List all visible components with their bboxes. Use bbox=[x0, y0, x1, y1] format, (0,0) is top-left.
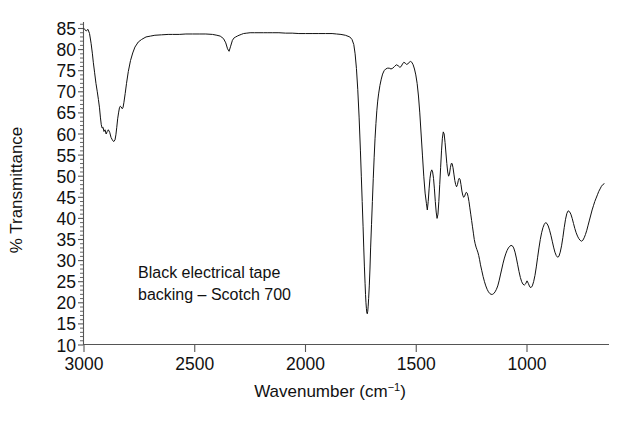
annotation-line-1: Black electrical tape bbox=[138, 264, 280, 281]
y-tick-label: 80 bbox=[57, 40, 77, 60]
y-tick-label: 35 bbox=[57, 230, 76, 250]
x-tick-label: 2500 bbox=[175, 354, 214, 374]
y-tick-label: 75 bbox=[57, 61, 76, 81]
y-axis-label: % Transmittance bbox=[7, 127, 26, 254]
y-tick-label: 70 bbox=[57, 82, 77, 102]
x-axis-label-base: Wavenumber (cm bbox=[254, 382, 388, 401]
x-axis-label-group: Wavenumber (cm−1) bbox=[254, 381, 406, 401]
x-tick-label: 3000 bbox=[65, 354, 104, 374]
x-axis-label: Wavenumber (cm−1) bbox=[254, 381, 406, 401]
y-tick-label: 20 bbox=[57, 293, 77, 313]
chart-canvas: % Transmittance 101520253035404550556065… bbox=[0, 0, 623, 432]
x-tick-mark-group bbox=[84, 345, 527, 353]
y-tick-label: 10 bbox=[57, 336, 77, 356]
y-tick-label: 40 bbox=[57, 209, 77, 229]
x-axis-label-superscript: −1 bbox=[388, 381, 401, 393]
ir-spectrum-chart: % Transmittance 101520253035404550556065… bbox=[0, 0, 623, 432]
y-tick-label: 50 bbox=[57, 167, 77, 187]
y-tick-mark-group bbox=[78, 24, 84, 345]
annotation-group: Black electrical tape backing – Scotch 7… bbox=[138, 264, 291, 303]
y-axis-label-group: % Transmittance bbox=[7, 127, 26, 254]
x-tick-label: 1000 bbox=[508, 354, 547, 374]
x-axis-label-close: ) bbox=[400, 382, 406, 401]
y-tick-label: 85 bbox=[57, 19, 76, 39]
y-tick-label: 60 bbox=[57, 125, 77, 145]
y-tick-label: 45 bbox=[57, 188, 76, 208]
y-tick-label-group: 10152025303540455055606570758085 bbox=[57, 19, 77, 356]
y-tick-label: 25 bbox=[57, 272, 76, 292]
x-tick-label-group: 30002500200015001000 bbox=[65, 354, 547, 374]
x-tick-label: 2000 bbox=[286, 354, 325, 374]
y-tick-label: 15 bbox=[57, 314, 76, 334]
x-tick-label: 1500 bbox=[397, 354, 436, 374]
y-tick-label: 30 bbox=[57, 251, 77, 271]
y-tick-label: 55 bbox=[57, 146, 76, 166]
annotation-line-2: backing – Scotch 700 bbox=[138, 286, 291, 303]
y-tick-label: 65 bbox=[57, 103, 76, 123]
